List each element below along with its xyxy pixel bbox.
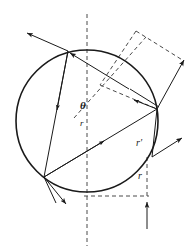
transmitted-ray-at-right [157, 60, 184, 109]
ray-diagram-figure: θ r r′ r [0, 0, 195, 252]
angle-label-r-inner: r [80, 118, 84, 128]
optics-diagram-svg: θ r r′ r [0, 0, 195, 252]
angle-label-r-bottom: r [138, 170, 142, 181]
construction-lines-group [74, 14, 184, 246]
angle-label-r-prime: r′ [136, 137, 143, 148]
angle-label-theta: θ [80, 99, 86, 111]
refracted-ray-direction-arrow [57, 51, 68, 110]
parallelogram-edge-top [136, 31, 184, 61]
externally-reflected-ray [27, 33, 68, 51]
light-rays-group [27, 33, 184, 229]
internal-ray-direction-arrow [44, 141, 104, 177]
emergent-ray [152, 138, 182, 157]
internal-reflection-arrow-at-right [134, 100, 157, 109]
